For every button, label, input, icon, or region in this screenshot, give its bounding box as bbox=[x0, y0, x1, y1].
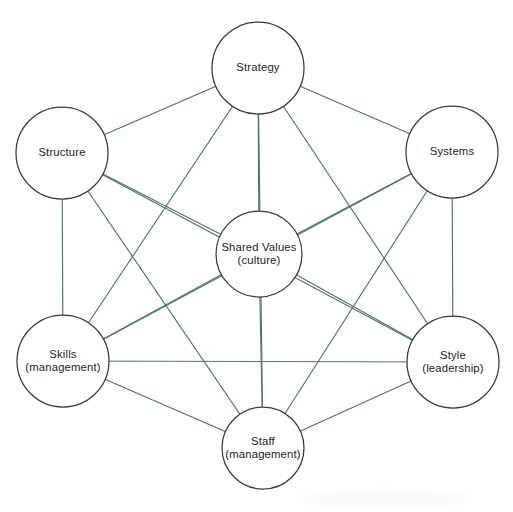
node-label-primary-skills: Skills bbox=[49, 347, 76, 359]
node-label-primary-style: Style bbox=[440, 348, 466, 360]
node-label-primary-structure: Structure bbox=[38, 146, 85, 158]
node-label-primary-strategy: Strategy bbox=[236, 61, 279, 73]
edge-strategy-to-skills bbox=[63, 68, 258, 361]
node-systems[interactable]: Systems bbox=[406, 106, 498, 198]
node-label-primary-staff: Staff bbox=[251, 434, 275, 446]
node-label-strategy: Strategy bbox=[236, 61, 279, 73]
node-structure[interactable]: Structure bbox=[16, 107, 108, 199]
node-label-secondary-skills: (management) bbox=[25, 361, 100, 373]
node-label-primary-shared-values: Shared Values bbox=[221, 240, 296, 252]
node-label-secondary-style: (leadership) bbox=[422, 362, 484, 374]
node-skills[interactable]: Skills(management) bbox=[17, 315, 109, 407]
diagram-canvas: StrategyStructureSystemsShared Values(cu… bbox=[0, 0, 513, 512]
node-label-secondary-staff: (management) bbox=[225, 448, 300, 460]
node-label-secondary-shared-values: (culture) bbox=[238, 254, 281, 266]
seven-s-framework-diagram: StrategyStructureSystemsShared Values(cu… bbox=[0, 0, 513, 512]
node-staff[interactable]: Staff(management) bbox=[222, 407, 304, 489]
node-label-systems: Systems bbox=[430, 145, 475, 157]
edge-systems-to-staff bbox=[263, 152, 452, 448]
node-shared-values[interactable]: Shared Values(culture) bbox=[216, 211, 302, 297]
node-label-primary-systems: Systems bbox=[430, 145, 475, 157]
node-style[interactable]: Style(leadership) bbox=[407, 316, 499, 408]
node-strategy[interactable]: Strategy bbox=[212, 22, 304, 114]
edge-strategy-to-style bbox=[258, 68, 453, 362]
edge-skills-to-style bbox=[63, 361, 453, 362]
node-label-structure: Structure bbox=[38, 146, 85, 158]
nodes-layer: StrategyStructureSystemsShared Values(cu… bbox=[16, 22, 499, 489]
